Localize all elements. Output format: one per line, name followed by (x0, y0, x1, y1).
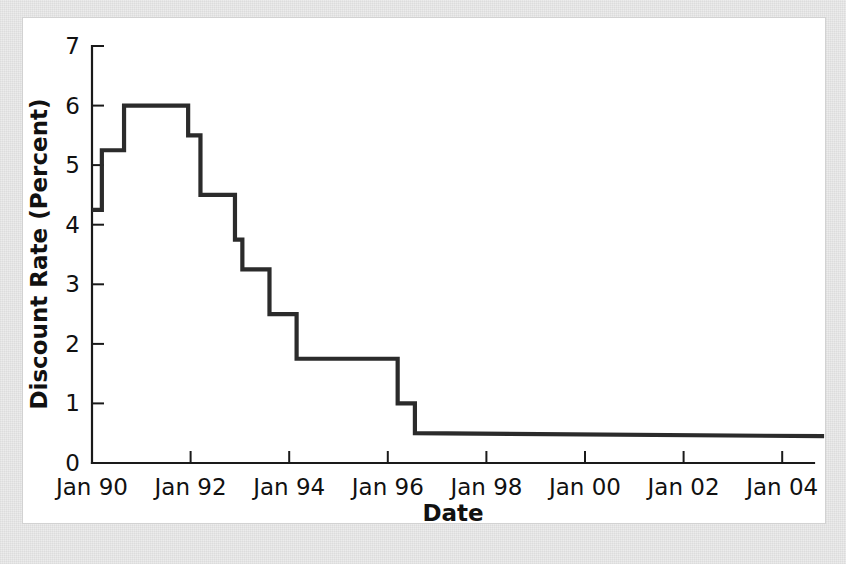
axis-group (92, 46, 814, 463)
y-tick-label-2: 2 (65, 331, 80, 357)
x-tick-label-jan94: Jan 94 (251, 474, 325, 500)
x-tick-label-jan98: Jan 98 (448, 474, 522, 500)
x-axis-title: Date (422, 500, 483, 524)
figure-page: 0 1 2 3 4 5 6 7 Jan (0, 0, 846, 564)
x-tick-label-jan00: Jan 00 (547, 474, 621, 500)
y-axis-title: Discount Rate (Percent) (26, 98, 52, 409)
y-tick-labels: 0 1 2 3 4 5 6 7 (65, 33, 80, 476)
discount-rate-series-line (92, 106, 824, 437)
x-tick-label-jan02: Jan 02 (646, 474, 720, 500)
y-tick-label-6: 6 (65, 93, 80, 119)
discount-rate-step-chart: 0 1 2 3 4 5 6 7 Jan (23, 18, 826, 524)
y-tick-marks (92, 46, 104, 463)
x-tick-label-jan90: Jan 90 (54, 474, 128, 500)
x-tick-label-jan92: Jan 92 (153, 474, 227, 500)
x-tick-label-jan04: Jan 04 (744, 474, 818, 500)
y-tick-label-0: 0 (65, 450, 80, 476)
x-tick-marks (92, 451, 782, 463)
y-tick-label-5: 5 (65, 152, 80, 178)
x-tick-label-jan96: Jan 96 (350, 474, 424, 500)
chart-card: 0 1 2 3 4 5 6 7 Jan (22, 17, 826, 524)
y-tick-label-3: 3 (65, 271, 80, 297)
x-tick-labels: Jan 90 Jan 92 Jan 94 Jan 96 Jan 98 Jan 0… (54, 474, 818, 500)
y-tick-label-4: 4 (65, 212, 80, 238)
y-tick-label-7: 7 (65, 33, 80, 59)
y-tick-label-1: 1 (65, 390, 80, 416)
